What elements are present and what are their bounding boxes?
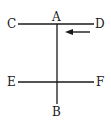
label-c: C bbox=[7, 17, 16, 31]
diagram: A C D E F B bbox=[0, 0, 111, 129]
label-a: A bbox=[51, 10, 61, 24]
label-e: E bbox=[7, 75, 16, 89]
label-b: B bbox=[52, 105, 61, 119]
left-arrow-icon bbox=[65, 29, 90, 35]
label-d: D bbox=[95, 17, 105, 31]
label-f: F bbox=[96, 75, 104, 89]
